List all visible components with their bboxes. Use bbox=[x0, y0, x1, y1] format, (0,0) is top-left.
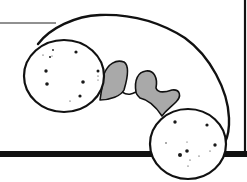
illustration-canvas bbox=[0, 0, 247, 182]
gray-lobe-connector bbox=[122, 92, 136, 94]
gray-lobe-right bbox=[135, 71, 179, 116]
cell-illustration bbox=[0, 0, 247, 182]
left-sphere bbox=[24, 40, 104, 112]
